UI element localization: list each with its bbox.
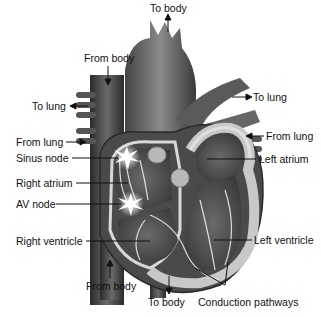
label-to-body-top: To body: [150, 2, 187, 14]
label-right-atrium: Right atrium: [16, 177, 73, 189]
label-from-lung-right: From lung: [266, 130, 313, 142]
label-left-atrium: Left atrium: [259, 153, 309, 165]
label-left-ventricle: Left ventricle: [254, 234, 314, 246]
label-right-ventricle: Right ventricle: [16, 235, 83, 247]
label-from-body-bottom: From body: [86, 280, 136, 292]
label-from-lung-left: From lung: [16, 136, 63, 148]
label-conduction-pathways: Conduction pathways: [198, 296, 298, 308]
label-to-lung-left: To lung: [32, 100, 66, 112]
label-to-body-bottom: To body: [148, 296, 185, 308]
label-av-node: AV node: [16, 198, 56, 210]
label-from-body-top: From body: [84, 52, 134, 64]
label-to-lung-right: To lung: [253, 91, 287, 103]
heart-diagram: To body From body To lung To lung From l…: [0, 0, 321, 317]
label-sinus-node: Sinus node: [16, 152, 69, 164]
